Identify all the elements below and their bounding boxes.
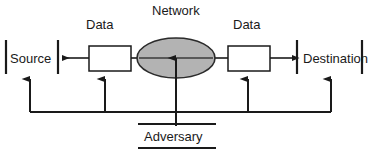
source-label: Source: [10, 52, 51, 65]
data-label-right: Data: [233, 18, 260, 31]
data-box-left: [89, 46, 131, 71]
data-label-left: Data: [86, 18, 113, 31]
network-label: Network: [152, 4, 200, 17]
network-attack-diagram: Source Destination Network Data Data Adv…: [0, 0, 371, 155]
adversary-label: Adversary: [144, 130, 203, 143]
data-box-right: [228, 46, 270, 71]
destination-label: Destination: [303, 52, 368, 65]
